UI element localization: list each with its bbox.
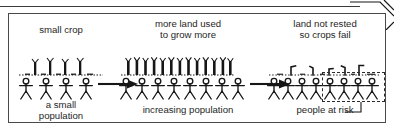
page-top-rule: [0, 6, 360, 7]
people-at-risk-leader-line: [345, 102, 371, 116]
people-at-risk-highlight-box: [322, 72, 385, 102]
panel-1-heading: small crop: [9, 24, 113, 35]
diagram-frame: small crop: [8, 13, 386, 123]
panel-1-crop-row: [17, 56, 105, 78]
panel-1-caption: a small population: [9, 99, 113, 122]
panel-1-caption-line-2: population: [9, 110, 113, 121]
panel-more-land: more land used to grow more: [113, 14, 263, 124]
panel-2-people-row: [117, 76, 249, 100]
panel-1-caption-line-1: a small: [9, 99, 113, 110]
panel-small-crop: small crop: [9, 14, 113, 124]
panel-1-people-row: [15, 76, 107, 100]
panel-3-heading: land not rested so crops fail: [263, 18, 387, 41]
panel-2-crop-row: [119, 56, 237, 78]
panel-2-caption: increasing population: [113, 104, 263, 115]
panel-1-heading-line: small crop: [9, 24, 113, 35]
figure-canvas: small crop: [0, 0, 394, 130]
panel-2-heading-line-1: more land used: [113, 18, 263, 29]
panel-3-heading-line-1: land not rested: [263, 18, 387, 29]
panel-2-heading-line-2: to grow more: [113, 29, 263, 40]
panel-2-caption-line-1: increasing population: [113, 104, 263, 115]
panel-3-heading-line-2: so crops fail: [263, 29, 387, 40]
panel-2-heading: more land used to grow more: [113, 18, 263, 41]
